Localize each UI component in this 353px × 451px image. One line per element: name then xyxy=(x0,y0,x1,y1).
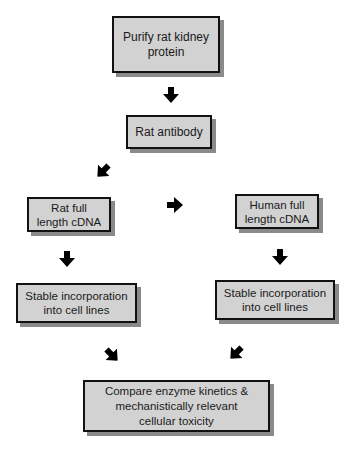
node-label: Stable incorporation into cell lines xyxy=(25,289,127,317)
arrow-down-left-icon xyxy=(92,160,115,183)
node-label: Human full length cDNA xyxy=(245,198,310,226)
node-rat-stable-incorporation: Stable incorporation into cell lines xyxy=(16,283,137,323)
node-rat-antibody: Rat antibody xyxy=(126,115,212,149)
arrow-down-right-icon xyxy=(101,344,124,367)
node-label: Rat antibody xyxy=(135,125,202,139)
arrow-right-icon xyxy=(167,197,183,213)
arrow-down-icon xyxy=(59,251,75,267)
node-human-full-length-cdna: Human full length cDNA xyxy=(235,194,319,229)
node-label: Rat full length cDNA xyxy=(37,201,102,229)
node-compare-enzyme-kinetics: Compare enzyme kinetics & mechanisticall… xyxy=(83,380,270,432)
node-label: Stable incorporation into cell lines xyxy=(224,286,326,314)
node-human-stable-incorporation: Stable incorporation into cell lines xyxy=(215,280,335,320)
arrow-down-left-icon xyxy=(225,342,248,365)
node-purify-rat-kidney-protein: Purify rat kidney protein xyxy=(112,16,220,73)
arrow-down-icon xyxy=(272,249,288,265)
arrow-down-icon xyxy=(163,87,179,103)
node-label: Purify rat kidney protein xyxy=(123,30,209,60)
node-rat-full-length-cdna: Rat full length cDNA xyxy=(27,197,111,232)
node-label: Compare enzyme kinetics & mechanisticall… xyxy=(105,384,248,429)
